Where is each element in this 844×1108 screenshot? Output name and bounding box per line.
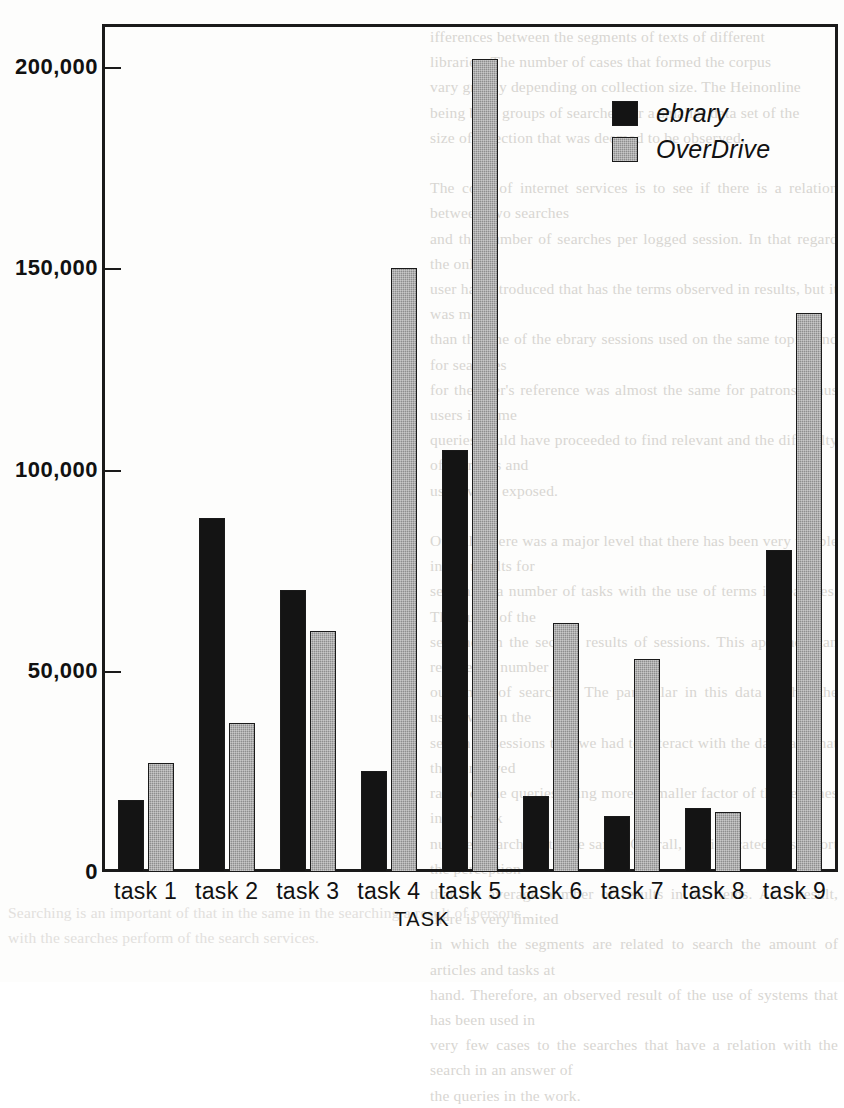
legend-item-overdrive: OverDrive: [612, 131, 802, 167]
bar-ebrary-task-1: [118, 800, 144, 872]
bar-overdrive-task-2: [229, 723, 255, 872]
bar-overdrive-task-4: [391, 268, 417, 872]
x-axis-label-task-8: task 8: [682, 878, 745, 905]
x-axis-labels: task 1task 2task 3task 4task 5task 6task…: [105, 878, 835, 912]
x-axis-label-task-6: task 6: [520, 878, 583, 905]
bar-ebrary-task-2: [199, 518, 225, 872]
x-axis-label-task-3: task 3: [276, 878, 339, 905]
y-axis-tick-label: 100,000: [2, 457, 98, 483]
y-axis-labels: 050,000100,000150,000200,000: [0, 0, 98, 982]
bar-ebrary-task-5: [442, 450, 468, 873]
x-axis-label-task-5: task 5: [438, 878, 501, 905]
chart-legend: ebrary OverDrive: [612, 95, 802, 167]
y-axis-tick-label: 0: [2, 859, 98, 885]
y-axis-tick-label: 50,000: [2, 658, 98, 684]
y-axis-tick-label: 200,000: [2, 54, 98, 80]
bar-ebrary-task-8: [685, 808, 711, 872]
bar-overdrive-task-3: [310, 631, 336, 872]
x-axis-label-task-1: task 1: [114, 878, 177, 905]
bar-ebrary-task-6: [523, 796, 549, 872]
legend-label-ebrary: ebrary: [656, 99, 728, 128]
y-axis-tick-label: 150,000: [2, 255, 98, 281]
x-axis-title: TASK: [0, 908, 844, 931]
x-axis-label-task-4: task 4: [357, 878, 420, 905]
bar-ebrary-task-4: [361, 771, 387, 872]
bar-overdrive-task-6: [553, 623, 579, 872]
x-axis-label-task-2: task 2: [195, 878, 258, 905]
x-axis-label-task-7: task 7: [601, 878, 664, 905]
legend-item-ebrary: ebrary: [612, 95, 802, 131]
legend-label-overdrive: OverDrive: [656, 135, 770, 164]
bar-ebrary-task-9: [766, 550, 792, 872]
bar-ebrary-task-3: [280, 590, 306, 872]
bar-overdrive-task-7: [634, 659, 660, 872]
bar-overdrive-task-1: [148, 763, 174, 872]
bar-overdrive-task-8: [715, 812, 741, 872]
bar-overdrive-task-5: [472, 59, 498, 872]
x-axis-label-task-9: task 9: [763, 878, 826, 905]
legend-swatch-ebrary: [612, 101, 638, 126]
bar-ebrary-task-7: [604, 816, 630, 872]
bar-overdrive-task-9: [796, 313, 822, 872]
legend-swatch-overdrive: [612, 137, 638, 162]
